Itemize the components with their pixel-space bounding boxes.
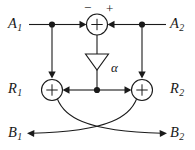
- label-node-r2-sub: 2: [179, 87, 184, 98]
- arrowhead-into-left-adder-side: [63, 86, 70, 93]
- label-sign-plus: +: [106, 2, 113, 15]
- label-output-b1: B1: [8, 125, 22, 142]
- arrowhead-into-top-adder-right: [108, 21, 115, 28]
- junction-dot-left-top: [49, 21, 55, 27]
- label-gain-alpha: α: [111, 61, 118, 74]
- arrowhead-into-top-adder-left: [80, 21, 87, 28]
- label-node-r1-base: R: [8, 80, 17, 96]
- label-input-a1-base: A: [8, 15, 17, 31]
- label-output-b2-sub: 2: [179, 131, 184, 142]
- arrowhead-into-right-adder-side: [125, 86, 132, 93]
- label-node-r1: R1: [8, 81, 22, 98]
- amplifier-triangle: [86, 54, 109, 70]
- label-node-r2: R2: [170, 81, 184, 98]
- label-node-r1-sub: 1: [17, 87, 22, 98]
- label-output-b2-base: B: [170, 124, 179, 140]
- label-input-a2-base: A: [170, 15, 179, 31]
- junction-dot-center: [94, 87, 100, 93]
- arrowhead-into-right-adder-top: [138, 72, 145, 79]
- label-input-a1-sub: 1: [17, 22, 22, 33]
- arrowhead-into-left-adder-top: [48, 72, 55, 79]
- label-node-r2-base: R: [170, 80, 179, 96]
- label-output-b1-sub: 1: [17, 131, 22, 142]
- label-input-a2-sub: 2: [179, 22, 184, 33]
- schematic-canvas: [0, 0, 195, 150]
- arrowhead-to-b2: [160, 130, 167, 137]
- label-sign-minus: −: [84, 1, 91, 14]
- signal-flow-diagram: A1 A2 R1 R2 B1 B2 − + α: [0, 0, 195, 150]
- curve-right-adder-to-b1: [32, 99, 137, 133]
- label-input-a1: A1: [8, 16, 22, 33]
- arrowhead-to-b1: [27, 130, 34, 137]
- curve-left-adder-to-b2: [58, 99, 163, 133]
- label-output-b2: B2: [170, 125, 184, 142]
- label-output-b1-base: B: [8, 124, 17, 140]
- junction-dot-right-top: [139, 21, 145, 27]
- label-input-a2: A2: [170, 16, 184, 33]
